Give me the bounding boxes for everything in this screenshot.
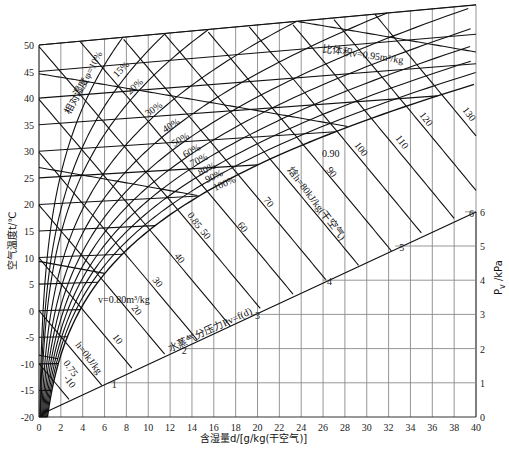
pv-line-label: 水蒸气分压力Pv=f(d) <box>166 304 254 354</box>
x-tick-label: 22 <box>274 422 284 433</box>
h-100-label: 100 <box>352 140 370 159</box>
h-60-label: 60 <box>235 220 250 235</box>
h-40-label: 40 <box>172 251 187 266</box>
y-axis-label: 空气温度t/℃ <box>6 211 18 270</box>
y-tick-label: 40 <box>24 93 34 104</box>
y-tick-label: 30 <box>24 146 34 157</box>
annotations: 相对湿度φ=10% 15% 20% 30% 40% 50% 60% 70% 80… <box>61 43 478 390</box>
y2-tick-label: 6 <box>480 207 485 218</box>
x-tick-label: 30 <box>362 422 372 433</box>
y-tick-label: 20 <box>24 199 34 210</box>
x-tick-label: 6 <box>102 422 107 433</box>
x-tick-label: 26 <box>318 422 328 433</box>
y2-tick-label: 4 <box>480 275 485 286</box>
v-080-label: v=0.80m³/kg <box>98 294 150 305</box>
pv-point-label: 6 <box>469 208 474 219</box>
vapor-pressure-line <box>46 212 476 412</box>
x-tick-label: 0 <box>37 422 42 433</box>
x-tick-label: 12 <box>165 422 175 433</box>
x-axis-label: 含湿量d/[g/kg(干空气)] <box>200 432 307 444</box>
y-tick-label: 15 <box>24 226 34 237</box>
y-tick-label: 5 <box>29 279 34 290</box>
y-tick-label: 50 <box>24 40 34 51</box>
enthalpy-line <box>334 20 476 191</box>
y-tick-label: 35 <box>24 120 34 131</box>
x-tick-label: 32 <box>384 422 394 433</box>
y-tick-label: -15 <box>21 385 34 396</box>
x-tick-label: 38 <box>449 422 459 433</box>
specific-volume-line <box>39 168 197 196</box>
rh-20-label: 20% <box>124 76 145 96</box>
h-70-label: 70 <box>261 195 276 210</box>
v-090-label: 0.90 <box>322 148 340 159</box>
psychrometric-chart: 0246810121416182022242628303234363840-20… <box>0 0 509 458</box>
pv-point-label: 1 <box>112 379 117 390</box>
y2-tick-label: 0 <box>480 412 485 423</box>
y-tick-label: -5 <box>26 332 34 343</box>
rh-15-label: 15% <box>111 59 132 80</box>
pv-point-label: 3 <box>255 310 260 321</box>
y-tick-label: -10 <box>21 359 34 370</box>
x-tick-label: 28 <box>340 422 350 433</box>
v-095-label: 比体积v=0.95m³/kg <box>322 43 404 65</box>
y2-tick-label: 2 <box>480 344 485 355</box>
y2-tick-label: 3 <box>480 309 485 320</box>
y-tick-label: 25 <box>24 173 34 184</box>
enthalpy-line <box>124 39 326 279</box>
x-tick-label: 18 <box>231 422 241 433</box>
v-085-label: 0.85 <box>185 210 204 231</box>
rh-40-label: 40% <box>160 116 181 135</box>
x-tick-label: 36 <box>427 422 437 433</box>
x-tick-label: 4 <box>80 422 85 433</box>
x-tick-label: 16 <box>209 422 219 433</box>
x-tick-label: 8 <box>124 422 129 433</box>
h-50-label: 50 <box>198 227 213 242</box>
pv-point-label: 5 <box>399 242 404 253</box>
y2-tick-label: 1 <box>480 378 485 389</box>
h-80-label: 焓h=80kJ/kg(干空气) <box>285 164 349 243</box>
x-tick-label: 40 <box>471 422 481 433</box>
h-90-label: 90 <box>324 165 339 180</box>
x-tick-label: 34 <box>405 422 415 433</box>
y-tick-label: -20 <box>21 412 34 423</box>
pv-point-label: 4 <box>327 276 332 287</box>
y-tick-label: 45 <box>24 67 34 78</box>
x-tick-label: 14 <box>187 422 197 433</box>
x-tick-label: 2 <box>58 422 63 433</box>
y-tick-label: 0 <box>29 306 34 317</box>
y-tick-label: 10 <box>24 253 34 264</box>
h-10-label: 10 <box>110 332 125 347</box>
y2-axis-label: Pv /kPa <box>493 260 507 295</box>
x-tick-label: 10 <box>143 422 153 433</box>
y2-tick-label: 5 <box>480 241 485 252</box>
x-tick-label: 24 <box>296 422 306 433</box>
x-tick-label: 20 <box>253 422 263 433</box>
